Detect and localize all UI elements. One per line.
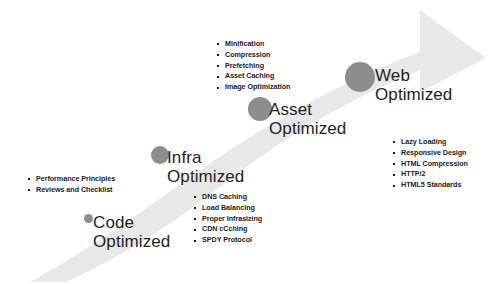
milestone-dot-web-optimized: [345, 62, 375, 92]
list-item: Prefetching: [216, 61, 290, 72]
list-item: HTML Compression: [392, 159, 468, 170]
list-item: HTML5 Standards: [392, 180, 468, 191]
milestone-label-web-optimized: Web Optimized: [375, 66, 452, 104]
milestone-label-code-optimized: Code Optimized: [93, 213, 170, 251]
milestone-dot-code-optimized: [84, 214, 93, 223]
list-item: Image Optimization: [216, 82, 290, 93]
bullet-list-code-optimized: Performance Principles Reviews and Check…: [27, 174, 115, 195]
bullet-list-web-optimized: Lazy Loading Responsive Design HTML Comp…: [392, 137, 468, 191]
list-item: Reviews and Checklist: [27, 185, 115, 196]
list-item: Lazy Loading: [392, 137, 468, 148]
list-item: SPDY Protocol: [193, 235, 262, 246]
list-item: Asset Caching: [216, 71, 290, 82]
list-item: Compression: [216, 50, 290, 61]
list-item: HTTP/2: [392, 169, 468, 180]
list-item: DNS Caching: [193, 192, 262, 203]
list-item: Performance Principles: [27, 174, 115, 185]
milestone-label-asset-optimized: Asset Optimized: [269, 100, 346, 138]
list-item: Responsive Design: [392, 148, 468, 159]
list-item: CDN cCching: [193, 224, 262, 235]
list-item: Proper Infrasizing: [193, 214, 262, 225]
bullet-list-infra-optimized: DNS Caching Load Balancing Proper Infras…: [193, 192, 262, 246]
list-item: Load Balancing: [193, 203, 262, 214]
list-item: Minification: [216, 39, 290, 50]
bullet-list-asset-optimized: Minification Compression Prefetching Ass…: [216, 39, 290, 93]
diagram-canvas: Code Optimized Performance Principles Re…: [0, 0, 500, 284]
milestone-label-infra-optimized: Infra Optimized: [167, 148, 244, 186]
